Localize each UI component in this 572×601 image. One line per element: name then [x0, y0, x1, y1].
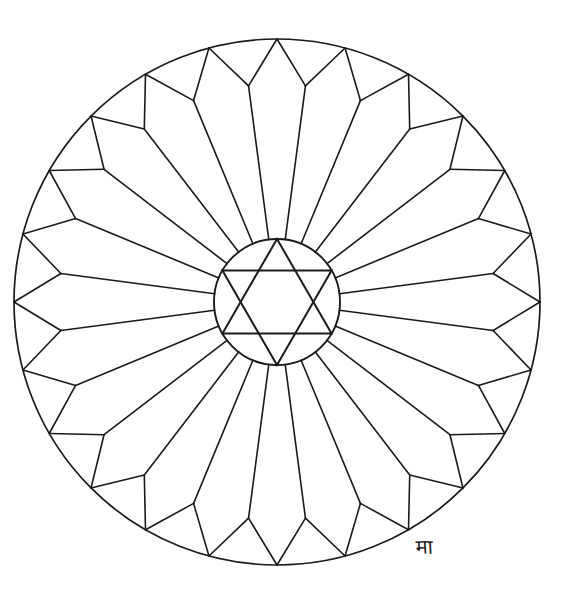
mandala-drawing: [0, 0, 572, 601]
background-layer: [0, 0, 572, 601]
page-background: [0, 0, 572, 601]
mandala-canvas: मा: [0, 0, 572, 601]
